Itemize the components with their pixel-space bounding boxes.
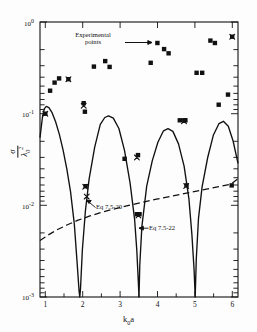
- figure-container: 100 10-1 10-2 10-3 1 2 3 4 5 6 σ λ02 k0a…: [0, 0, 257, 332]
- xtick-label-1: 1: [38, 300, 52, 309]
- annotation-experimental-points: Experimental points: [62, 31, 124, 46]
- data-points-x-markers: [43, 34, 235, 218]
- y-axis-numerator: σ: [8, 146, 18, 158]
- y-axis-denominator: λ02: [18, 146, 31, 158]
- curve-eq-7-5-20: [40, 106, 238, 297]
- annotation-eq-7-5-20: Eq 7.5-20: [96, 203, 122, 210]
- ytick-label-1: 10-1: [12, 109, 34, 119]
- xtick-label-5: 5: [188, 300, 202, 309]
- annotation-eq-7-5-22: Eq 7.5-22: [149, 224, 175, 231]
- x-axis-label: k0a: [0, 314, 257, 326]
- xtick-label-2: 2: [76, 300, 90, 309]
- y-axis-denominator-subscript: 0: [25, 150, 31, 153]
- annotation-leaders: [87, 41, 152, 231]
- ytick-label-2: 10-2: [12, 201, 34, 211]
- annotation-experimental-line-2: points: [85, 38, 101, 45]
- xtick-label-6: 6: [225, 300, 239, 309]
- chart-canvas: [0, 0, 257, 332]
- y-axis-label: σ λ02: [8, 124, 31, 180]
- y-axis-denominator-exponent: 2: [18, 147, 24, 150]
- x-axis-variable: a: [130, 314, 134, 324]
- xtick-label-3: 3: [113, 300, 127, 309]
- ytick-label-0: 100: [12, 18, 34, 28]
- annotation-experimental-line-1: Experimental: [75, 31, 111, 38]
- ytick-label-3: 10-3: [12, 292, 34, 302]
- xtick-label-4: 4: [151, 300, 165, 309]
